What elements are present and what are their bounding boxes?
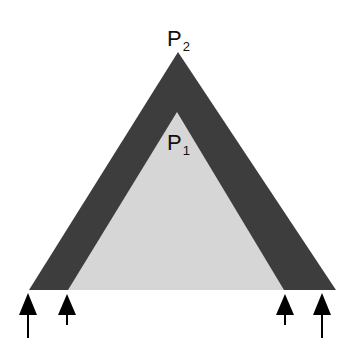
arrow-up-icon-outer-right bbox=[313, 293, 331, 338]
arrow-up-icon-inner-right bbox=[276, 294, 294, 325]
triangle-diagram: P2 P1 bbox=[0, 0, 343, 354]
arrow-up-icon-outer-left bbox=[19, 293, 37, 338]
label-p2: P2 bbox=[167, 26, 190, 54]
arrow-up-icon-inner-left bbox=[58, 294, 76, 325]
